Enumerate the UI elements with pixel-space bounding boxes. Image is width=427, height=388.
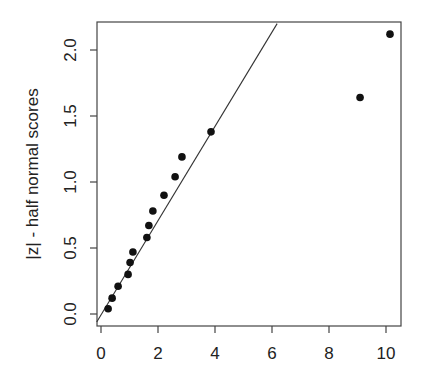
data-point: [160, 191, 168, 199]
x-tick-label: 6: [267, 344, 276, 363]
data-point: [108, 294, 116, 302]
data-points: [104, 30, 393, 312]
x-tick-label: 2: [153, 344, 162, 363]
x-axis: 0246810: [96, 326, 395, 363]
data-point: [178, 153, 186, 161]
data-point: [207, 128, 215, 136]
data-point: [145, 222, 153, 230]
y-tick-label: 2.0: [61, 38, 80, 62]
plot-frame: [97, 22, 401, 326]
x-tick-label: 10: [377, 344, 396, 363]
y-axis: 0.00.51.01.52.0: [61, 38, 97, 326]
data-point: [124, 271, 132, 279]
reference-line: [97, 24, 277, 322]
data-point: [114, 282, 122, 290]
y-tick-label: 1.0: [61, 170, 80, 194]
x-tick-label: 0: [96, 344, 105, 363]
data-point: [143, 234, 151, 242]
data-point: [149, 207, 157, 215]
y-tick-label: 0.5: [61, 236, 80, 260]
data-point: [386, 30, 394, 38]
data-point: [356, 94, 364, 102]
y-tick-label: 0.0: [61, 302, 80, 326]
data-point: [126, 259, 134, 267]
data-point: [104, 305, 112, 313]
y-tick-label: 1.5: [61, 104, 80, 128]
half-normal-plot: 0246810 0.00.51.01.52.0 |z| - half norma…: [0, 0, 427, 388]
data-point: [171, 173, 179, 181]
x-tick-label: 4: [210, 344, 219, 363]
x-tick-label: 8: [324, 344, 333, 363]
y-axis-label: |z| - half normal scores: [23, 88, 42, 259]
data-point: [129, 248, 137, 256]
